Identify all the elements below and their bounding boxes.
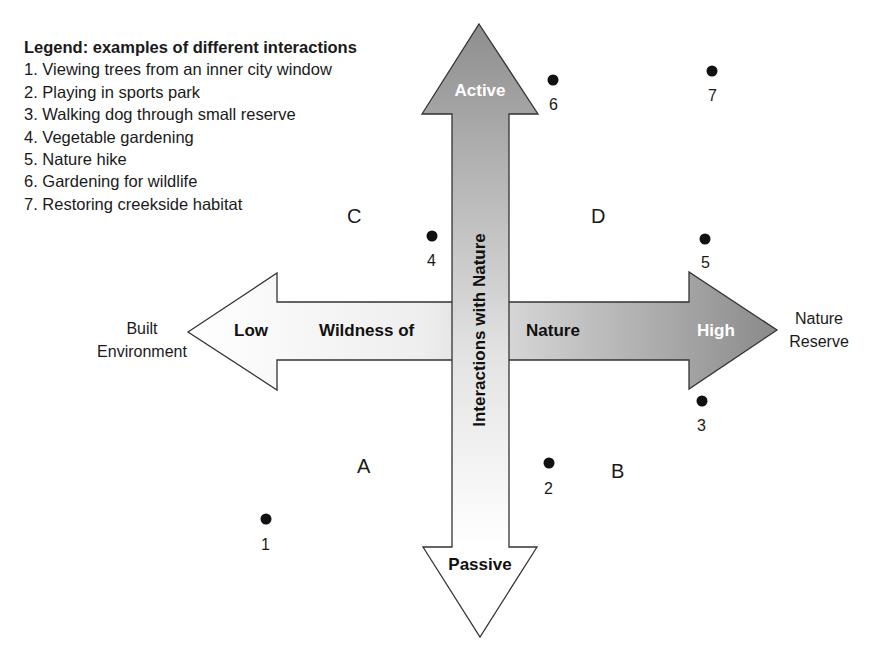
- quadrant-c: C: [347, 205, 361, 228]
- quadrant-a: A: [357, 455, 370, 478]
- point-label-1: 1: [261, 536, 270, 554]
- nature-label: Nature: [526, 321, 580, 341]
- point-label-5: 5: [701, 254, 710, 272]
- point-label-2: 2: [544, 480, 553, 498]
- nature-reserve-caption: Nature Reserve: [779, 307, 859, 353]
- legend-item: 1. Viewing trees from an inner city wind…: [24, 58, 357, 80]
- wildness-of-label: Wildness of: [319, 321, 414, 341]
- passive-label: Passive: [434, 555, 526, 575]
- legend-item: 6. Gardening for wildlife: [24, 170, 357, 192]
- legend-item: 2. Playing in sports park: [24, 81, 357, 103]
- built-environment-caption: Built Environment: [82, 317, 202, 363]
- high-label: High: [697, 321, 735, 341]
- point-label-3: 3: [697, 417, 706, 435]
- legend-item: 3. Walking dog through small reserve: [24, 103, 357, 125]
- legend: Legend: examples of different interactio…: [24, 36, 357, 215]
- legend-title: Legend: examples of different interactio…: [24, 36, 357, 58]
- quadrant-b: B: [611, 460, 624, 483]
- point-label-4: 4: [427, 252, 436, 270]
- legend-item: 4. Vegetable gardening: [24, 126, 357, 148]
- legend-item: 5. Nature hike: [24, 148, 357, 170]
- low-label: Low: [234, 321, 268, 341]
- active-label: Active: [449, 81, 511, 101]
- point-label-7: 7: [708, 87, 717, 105]
- vertical-axis-title: Interactions with Nature: [470, 210, 490, 450]
- point-label-6: 6: [549, 96, 558, 114]
- quadrant-d: D: [591, 205, 605, 228]
- legend-item: 7. Restoring creekside habitat: [24, 193, 357, 215]
